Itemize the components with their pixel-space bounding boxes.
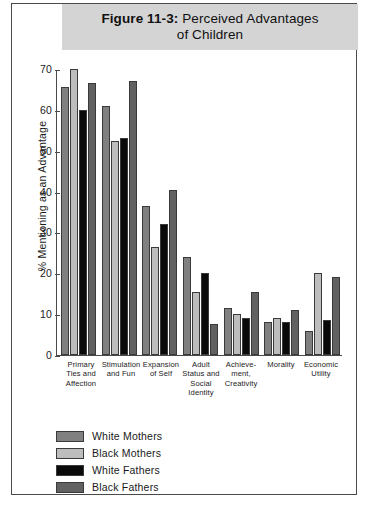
legend-swatch	[56, 482, 84, 493]
legend-swatch	[56, 465, 84, 476]
y-tick-label: 30	[26, 226, 52, 238]
category-label: AdultStatus andSocialIdentity	[181, 360, 221, 398]
figure-number: Figure 11-3:	[101, 11, 178, 26]
bar	[160, 224, 168, 355]
y-tick-label: 0	[26, 349, 52, 361]
bar	[242, 318, 250, 355]
bar	[251, 292, 259, 355]
bar	[282, 322, 290, 355]
bar	[102, 106, 110, 355]
y-tick-label: 50	[26, 145, 52, 157]
bar	[79, 110, 87, 355]
bar	[291, 310, 299, 355]
legend-label: White Fathers	[92, 464, 160, 476]
plot-area: % Mentioning as an Advantage 01020304050…	[12, 50, 356, 494]
legend-swatch	[56, 431, 84, 442]
bar	[305, 331, 313, 356]
y-tick: 10	[24, 315, 60, 316]
y-tick-mark	[55, 356, 60, 357]
bar	[129, 81, 137, 355]
bar	[323, 320, 331, 355]
figure-frame: Figure 11-3: Perceived Advantages of Chi…	[11, 3, 357, 495]
y-tick: 50	[24, 152, 60, 153]
y-tick-label: 20	[26, 267, 52, 279]
category-label: Achieve-ment,Creativity	[221, 360, 261, 398]
chart-legend: White MothersBlack MothersWhite FathersB…	[56, 428, 162, 496]
category-label: Stimulationand Fun	[101, 360, 141, 398]
bar-group	[305, 70, 340, 355]
figure-title: Figure 11-3: Perceived Advantages of Chi…	[101, 11, 318, 43]
bar	[151, 247, 159, 355]
bar	[210, 324, 218, 355]
bar-group	[61, 70, 96, 355]
figure-title-line2: of Children	[177, 27, 243, 42]
bar	[264, 322, 272, 355]
y-tick: 0	[24, 356, 60, 357]
bar	[120, 138, 128, 355]
category-label: Morality	[261, 360, 301, 398]
bar-group	[183, 70, 218, 355]
bar	[233, 314, 241, 355]
bar	[192, 292, 200, 355]
bar	[88, 83, 96, 355]
x-axis-category-labels: PrimaryTies andAffectionStimulationand F…	[57, 360, 343, 398]
y-tick: 60	[24, 111, 60, 112]
bar	[314, 273, 322, 355]
legend-swatch	[56, 448, 84, 459]
y-tick: 30	[24, 233, 60, 234]
legend-label: White Mothers	[92, 430, 162, 442]
bars-layer	[57, 70, 342, 355]
y-tick: 20	[24, 274, 60, 275]
category-label: Expansionof Self	[141, 360, 181, 398]
category-label: EconomicUtility	[301, 360, 341, 398]
legend-label: Black Mothers	[92, 447, 161, 459]
bar-group	[264, 70, 299, 355]
bar	[183, 257, 191, 355]
bar	[70, 69, 78, 355]
x-axis-line	[56, 355, 342, 356]
y-tick-label: 60	[26, 104, 52, 116]
bar	[142, 206, 150, 355]
y-tick: 40	[24, 193, 60, 194]
bar	[273, 318, 281, 355]
figure-title-rest: Perceived Advantages	[178, 11, 318, 26]
bar-group	[142, 70, 177, 355]
bar-group	[102, 70, 137, 355]
bar	[111, 141, 119, 356]
bar	[332, 277, 340, 355]
legend-item: Black Mothers	[56, 445, 162, 461]
bar	[201, 273, 209, 355]
y-tick-label: 40	[26, 186, 52, 198]
y-tick-label: 10	[26, 308, 52, 320]
bar	[169, 190, 177, 355]
axes: 010203040506070	[56, 70, 342, 356]
legend-item: White Fathers	[56, 462, 162, 478]
bar-group	[224, 70, 259, 355]
y-tick: 70	[24, 70, 60, 71]
legend-item: White Mothers	[56, 428, 162, 444]
category-label: PrimaryTies andAffection	[61, 360, 101, 398]
legend-item: Black Fathers	[56, 479, 162, 495]
figure-title-banner: Figure 11-3: Perceived Advantages of Chi…	[62, 4, 358, 50]
bar	[224, 308, 232, 355]
y-tick-label: 70	[26, 63, 52, 75]
legend-label: Black Fathers	[92, 481, 159, 493]
bar	[61, 87, 69, 355]
